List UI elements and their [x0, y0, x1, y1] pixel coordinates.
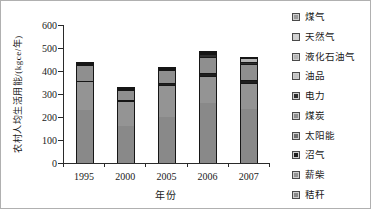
y-tick-label: 100: [27, 135, 57, 146]
x-tick-mark: [145, 164, 146, 167]
x-tick-mark: [187, 164, 188, 167]
x-axis-label-1995: 1995: [63, 171, 105, 182]
y-tick-label: 600: [27, 20, 57, 31]
y-axis-title: 农村人均生活用能/(kgce/年): [12, 24, 24, 164]
bar-segment-秸秆: [118, 126, 134, 163]
legend-label: 煤气: [305, 12, 325, 22]
y-tick-mark: [58, 94, 63, 95]
legend-swatch-icon: [292, 171, 300, 179]
x-tick-mark: [63, 164, 64, 167]
x-axis-title: 年份: [146, 187, 186, 202]
bar-segment-煤炭: [77, 65, 93, 82]
bar-segment-薪柴: [118, 101, 134, 126]
x-axis-label-2007: 2007: [228, 171, 270, 182]
legend-label: 薪柴: [305, 170, 325, 180]
bar-segment-煤炭: [241, 64, 257, 80]
bar-segment-煤炭: [118, 90, 134, 100]
y-tick-mark: [58, 117, 63, 118]
legend-item: 太阳能: [292, 131, 368, 141]
legend-label: 天然气: [305, 32, 335, 42]
legend-item: 秸秆: [292, 190, 368, 200]
bar-segment-秸秆: [159, 117, 175, 163]
bar-segment-煤炭: [159, 70, 175, 83]
bar-segment-煤炭: [200, 57, 216, 73]
legend-item: 煤炭: [292, 111, 368, 121]
x-tick-mark: [228, 164, 229, 167]
legend-swatch-icon: [292, 112, 300, 120]
bar-2005: [158, 67, 176, 163]
legend-label: 太阳能: [305, 131, 335, 141]
x-axis-label-2000: 2000: [104, 171, 146, 182]
legend-item: 薪柴: [292, 170, 368, 180]
legend-label: 电力: [305, 91, 325, 101]
legend-label: 油品: [305, 71, 325, 81]
chart-figure: 农村人均生活用能/(kgce/年) 年份 煤气天然气液化石油气油品电力煤炭太阳能…: [0, 0, 371, 209]
legend-swatch-icon: [292, 151, 300, 159]
y-tick-mark: [58, 25, 63, 26]
y-tick-label: 400: [27, 66, 57, 77]
legend-item: 电力: [292, 91, 368, 101]
bar-segment-薪柴: [200, 76, 216, 104]
bar-segment-薪柴: [77, 81, 93, 110]
bar-1995: [76, 62, 94, 163]
x-axis-label-2006: 2006: [187, 171, 229, 182]
y-tick-mark: [58, 71, 63, 72]
bar-segment-薪柴: [241, 83, 257, 109]
bar-2007: [240, 57, 258, 163]
legend-swatch-icon: [292, 13, 300, 21]
y-tick-label: 300: [27, 89, 57, 100]
legend-label: 液化石油气: [305, 52, 355, 62]
legend-swatch-icon: [292, 132, 300, 140]
legend-swatch-icon: [292, 92, 300, 100]
legend-label: 煤炭: [305, 111, 325, 121]
chart-legend: 煤气天然气液化石油气油品电力煤炭太阳能沼气薪柴秸秆: [292, 12, 368, 200]
y-tick-mark: [58, 48, 63, 49]
x-axis-label-2005: 2005: [145, 171, 187, 182]
bar-segment-薪柴: [159, 85, 175, 117]
legend-swatch-icon: [292, 33, 300, 41]
bar-2006: [199, 51, 217, 164]
x-tick-mark: [104, 164, 105, 167]
y-tick-mark: [58, 140, 63, 141]
legend-swatch-icon: [292, 191, 300, 199]
y-tick-label: 200: [27, 112, 57, 123]
legend-label: 沼气: [305, 150, 325, 160]
bar-segment-秸秆: [241, 109, 257, 163]
plot-area: [63, 25, 270, 164]
legend-item: 油品: [292, 71, 368, 81]
x-tick-mark: [269, 164, 270, 167]
y-tick-label: 0: [27, 158, 57, 169]
legend-item: 沼气: [292, 150, 368, 160]
legend-swatch-icon: [292, 72, 300, 80]
bar-segment-秸秆: [77, 110, 93, 163]
legend-item: 天然气: [292, 32, 368, 42]
legend-label: 秸秆: [305, 190, 325, 200]
bar-2000: [117, 87, 135, 163]
legend-item: 液化石油气: [292, 52, 368, 62]
bar-segment-秸秆: [200, 103, 216, 163]
legend-swatch-icon: [292, 53, 300, 61]
y-tick-label: 500: [27, 43, 57, 54]
legend-item: 煤气: [292, 12, 368, 22]
